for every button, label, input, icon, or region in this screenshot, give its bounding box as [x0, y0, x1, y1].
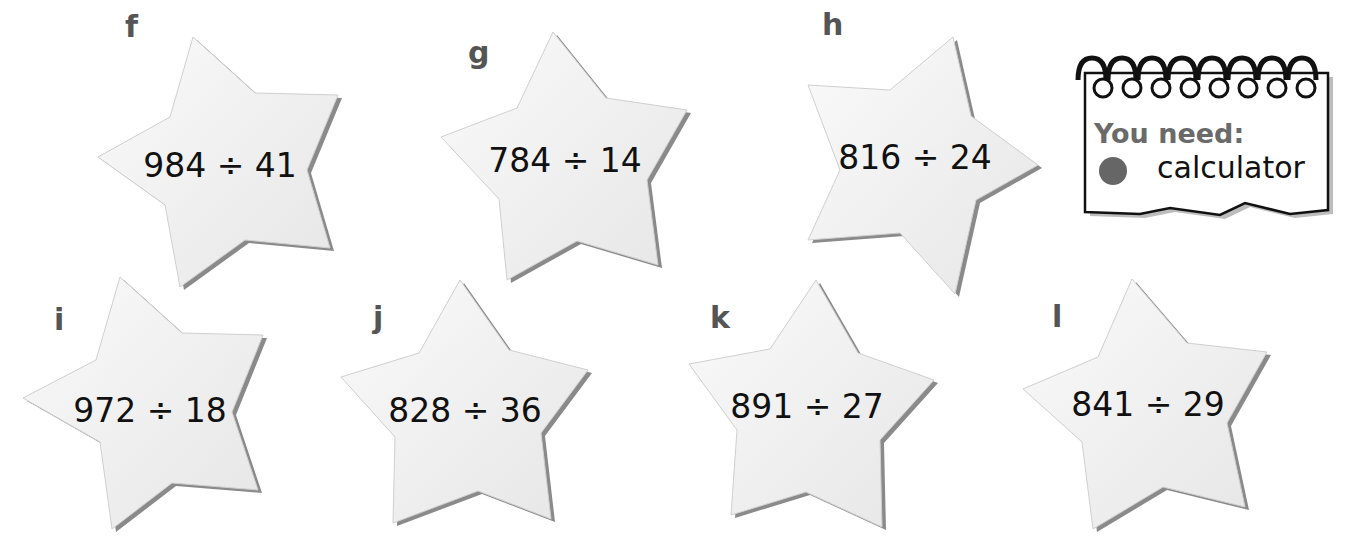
problem-label-h: h: [822, 10, 843, 40]
problem-label-g: g: [468, 38, 489, 68]
problem-label-i: i: [54, 305, 64, 335]
problem-expression-f: 984 ÷ 41: [143, 149, 297, 182]
problem-label-j: j: [373, 303, 383, 333]
problem-expression-i: 972 ÷ 18: [73, 394, 227, 427]
you-need-item-calculator: calculator: [1157, 150, 1305, 185]
problem-label-l: l: [1052, 302, 1062, 332]
problem-expression-h: 816 ÷ 24: [838, 141, 992, 174]
problem-label-k: k: [710, 303, 730, 333]
problem-expression-l: 841 ÷ 29: [1071, 388, 1225, 421]
you-need-title: You need:: [1094, 118, 1244, 149]
stars-layer: [0, 0, 1360, 559]
problem-expression-j: 828 ÷ 36: [388, 394, 542, 427]
problem-expression-k: 891 ÷ 27: [730, 390, 884, 423]
problem-label-f: f: [125, 12, 138, 42]
bullet-dot-icon: [1099, 157, 1127, 185]
problem-expression-g: 784 ÷ 14: [488, 144, 642, 177]
